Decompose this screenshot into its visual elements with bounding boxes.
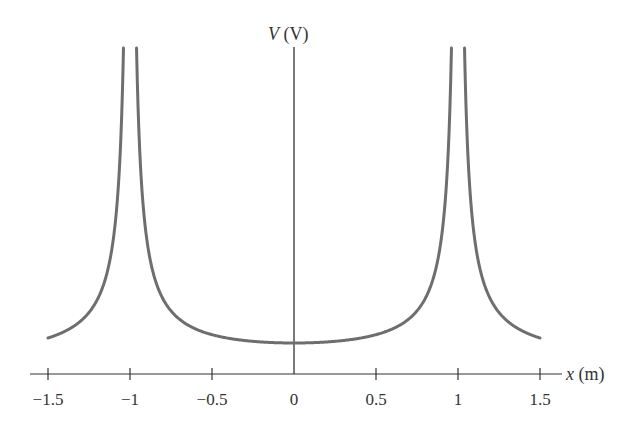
potential-chart: −1.5−1−0.500.511.5 x (m) V (V) bbox=[0, 0, 644, 431]
x-tick-label: 1 bbox=[454, 390, 463, 409]
x-tick-label: 1.5 bbox=[529, 390, 550, 409]
x-axis-label: x (m) bbox=[565, 364, 605, 385]
x-tick-label: 0.5 bbox=[365, 390, 386, 409]
x-tick-label: 0 bbox=[290, 390, 299, 409]
x-tick-label: −0.5 bbox=[197, 390, 228, 409]
y-axis-label: V (V) bbox=[268, 24, 309, 45]
x-tick-label: −1.5 bbox=[33, 390, 64, 409]
x-tick-label: −1 bbox=[121, 390, 139, 409]
x-tick-labels: −1.5−1−0.500.511.5 bbox=[33, 390, 551, 409]
